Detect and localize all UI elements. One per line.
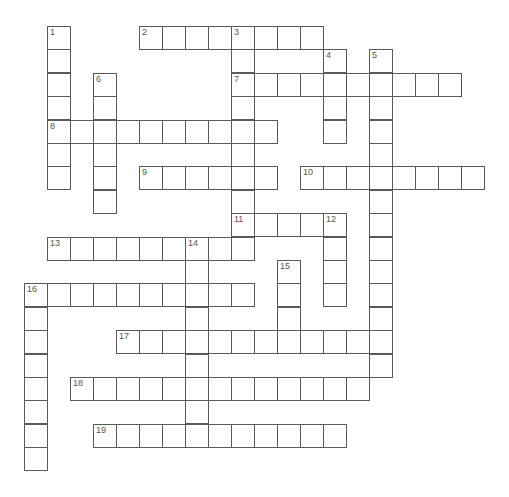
crossword-cell[interactable] [139, 377, 163, 401]
crossword-cell[interactable]: 8 [47, 120, 71, 144]
crossword-cell[interactable]: 12 [323, 213, 347, 237]
crossword-cell[interactable] [93, 237, 117, 261]
crossword-cell[interactable] [162, 166, 186, 190]
crossword-cell[interactable] [185, 120, 209, 144]
crossword-cell[interactable] [277, 283, 301, 307]
crossword-cell[interactable] [47, 96, 71, 120]
crossword-cell[interactable]: 5 [369, 49, 393, 73]
crossword-cell[interactable] [323, 377, 347, 401]
crossword-cell[interactable] [185, 26, 209, 50]
crossword-cell[interactable] [93, 190, 117, 214]
crossword-cell[interactable] [208, 330, 232, 354]
crossword-cell[interactable] [392, 73, 416, 97]
crossword-cell[interactable] [93, 120, 117, 144]
crossword-cell[interactable] [116, 237, 140, 261]
crossword-cell[interactable] [208, 424, 232, 448]
crossword-cell[interactable] [300, 73, 324, 97]
crossword-cell[interactable]: 3 [231, 26, 255, 50]
crossword-cell[interactable] [93, 143, 117, 167]
crossword-cell[interactable] [369, 283, 393, 307]
crossword-cell[interactable] [162, 120, 186, 144]
crossword-cell[interactable] [162, 26, 186, 50]
crossword-cell[interactable] [323, 237, 347, 261]
crossword-cell[interactable] [300, 213, 324, 237]
crossword-cell[interactable] [231, 424, 255, 448]
crossword-cell[interactable] [323, 96, 347, 120]
crossword-cell[interactable]: 9 [139, 166, 163, 190]
crossword-cell[interactable] [254, 73, 278, 97]
crossword-cell[interactable] [369, 96, 393, 120]
crossword-cell[interactable] [231, 143, 255, 167]
crossword-cell[interactable] [116, 283, 140, 307]
crossword-cell[interactable] [24, 400, 48, 424]
crossword-cell[interactable] [185, 260, 209, 284]
crossword-cell[interactable] [438, 166, 462, 190]
crossword-cell[interactable] [438, 73, 462, 97]
crossword-cell[interactable]: 19 [93, 424, 117, 448]
crossword-cell[interactable]: 6 [93, 73, 117, 97]
crossword-cell[interactable] [369, 330, 393, 354]
crossword-cell[interactable] [162, 283, 186, 307]
crossword-cell[interactable] [300, 424, 324, 448]
crossword-cell[interactable] [162, 424, 186, 448]
crossword-cell[interactable] [208, 120, 232, 144]
crossword-cell[interactable] [254, 330, 278, 354]
crossword-cell[interactable] [231, 96, 255, 120]
crossword-cell[interactable] [254, 120, 278, 144]
crossword-cell[interactable] [323, 330, 347, 354]
crossword-cell[interactable] [415, 166, 439, 190]
crossword-cell[interactable] [369, 307, 393, 331]
crossword-cell[interactable]: 13 [47, 237, 71, 261]
crossword-cell[interactable] [185, 166, 209, 190]
crossword-cell[interactable] [277, 73, 301, 97]
crossword-cell[interactable] [231, 120, 255, 144]
crossword-cell[interactable] [231, 377, 255, 401]
crossword-cell[interactable] [369, 260, 393, 284]
crossword-cell[interactable] [277, 377, 301, 401]
crossword-cell[interactable] [300, 330, 324, 354]
crossword-cell[interactable] [369, 237, 393, 261]
crossword-cell[interactable] [93, 377, 117, 401]
crossword-cell[interactable] [369, 190, 393, 214]
crossword-cell[interactable]: 7 [231, 73, 255, 97]
crossword-cell[interactable] [323, 166, 347, 190]
crossword-cell[interactable] [323, 283, 347, 307]
crossword-cell[interactable] [369, 143, 393, 167]
crossword-cell[interactable] [139, 330, 163, 354]
crossword-cell[interactable] [277, 26, 301, 50]
crossword-cell[interactable] [231, 190, 255, 214]
crossword-cell[interactable] [461, 166, 485, 190]
crossword-cell[interactable] [47, 143, 71, 167]
crossword-cell[interactable] [24, 377, 48, 401]
crossword-cell[interactable] [24, 307, 48, 331]
crossword-cell[interactable] [254, 26, 278, 50]
crossword-cell[interactable] [24, 330, 48, 354]
crossword-cell[interactable] [231, 166, 255, 190]
crossword-cell[interactable] [208, 166, 232, 190]
crossword-cell[interactable] [47, 49, 71, 73]
crossword-cell[interactable] [116, 120, 140, 144]
crossword-cell[interactable] [162, 330, 186, 354]
crossword-cell[interactable] [70, 283, 94, 307]
crossword-cell[interactable] [24, 424, 48, 448]
crossword-cell[interactable]: 10 [300, 166, 324, 190]
crossword-cell[interactable] [93, 96, 117, 120]
crossword-cell[interactable]: 15 [277, 260, 301, 284]
crossword-cell[interactable] [139, 424, 163, 448]
crossword-cell[interactable]: 17 [116, 330, 140, 354]
crossword-cell[interactable] [162, 237, 186, 261]
crossword-cell[interactable] [277, 424, 301, 448]
crossword-cell[interactable] [277, 307, 301, 331]
crossword-cell[interactable] [70, 237, 94, 261]
crossword-cell[interactable] [185, 424, 209, 448]
crossword-cell[interactable] [323, 73, 347, 97]
crossword-cell[interactable] [346, 330, 370, 354]
crossword-cell[interactable]: 14 [185, 237, 209, 261]
crossword-cell[interactable]: 16 [24, 283, 48, 307]
crossword-cell[interactable] [369, 73, 393, 97]
crossword-cell[interactable] [277, 213, 301, 237]
crossword-cell[interactable] [185, 330, 209, 354]
crossword-cell[interactable] [208, 377, 232, 401]
crossword-cell[interactable] [70, 120, 94, 144]
crossword-cell[interactable] [369, 213, 393, 237]
